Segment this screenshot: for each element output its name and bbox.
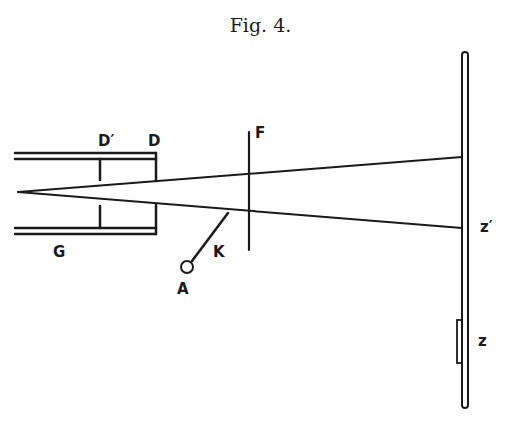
tube-top-wall bbox=[15, 153, 156, 159]
label-d-prime: D′ bbox=[98, 132, 114, 150]
tube-bottom-wall bbox=[15, 228, 156, 234]
patch-z bbox=[457, 320, 462, 363]
label-z-prime: z′ bbox=[480, 218, 493, 236]
ray-cone bbox=[18, 157, 462, 228]
ball-a bbox=[181, 261, 193, 273]
label-g: G bbox=[53, 243, 65, 261]
label-k: K bbox=[213, 243, 226, 261]
apparatus-diagram: D′ D F G K A z′ z bbox=[0, 0, 521, 431]
label-a: A bbox=[177, 280, 189, 298]
label-d: D bbox=[148, 132, 160, 150]
label-f: F bbox=[255, 124, 265, 142]
label-z: z bbox=[478, 332, 487, 350]
